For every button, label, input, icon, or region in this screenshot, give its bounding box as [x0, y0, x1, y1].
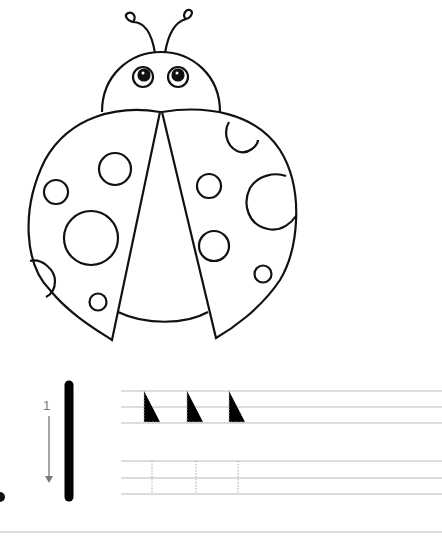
right-antenna-icon — [165, 10, 192, 53]
worksheet-canvas — [0, 0, 442, 540]
ladybug-head — [102, 52, 220, 112]
left-antenna-icon — [126, 13, 155, 53]
bullet-dot — [0, 492, 5, 502]
tracing-row-2 — [121, 461, 442, 494]
ladybug-illustration — [29, 10, 297, 340]
left-wing — [29, 110, 160, 340]
stroke-order-number: 1 — [43, 398, 50, 413]
stroke-order-arrow-icon — [45, 416, 53, 483]
tracing-row-1 — [121, 391, 442, 423]
ladybug-body — [118, 312, 208, 322]
